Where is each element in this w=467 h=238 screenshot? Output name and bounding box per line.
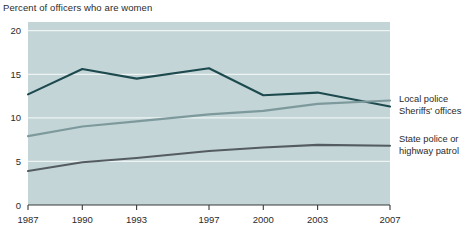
y-tick-label-15: 15 [10, 69, 21, 80]
chart-container: Percent of officers who are women 198719… [0, 0, 467, 238]
legend-label-state-police-line2: highway patrol [399, 146, 459, 158]
legend-entry-local-police: Local police Sheriffs' offices [399, 94, 461, 117]
x-tick-label-1993: 1993 [126, 214, 147, 225]
x-tick-label-1990: 1990 [72, 214, 93, 225]
y-tick-label-0: 0 [16, 200, 21, 211]
y-tick-labels: 05101520 [10, 25, 21, 210]
legend-label-state-police-line1: State police or [399, 134, 459, 146]
x-tick-label-1987: 1987 [17, 214, 38, 225]
line-chart-svg: 1987199019931997200020032007 05101520 [0, 0, 467, 238]
plot-area-wrapper: 1987199019931997200020032007 05101520 Lo… [0, 0, 467, 238]
x-tick-label-2003: 2003 [307, 214, 328, 225]
legend-label-sheriffs-offices: Sheriffs' offices [399, 106, 461, 118]
x-tick-label-1997: 1997 [198, 214, 219, 225]
y-tick-label-20: 20 [10, 25, 21, 36]
legend-entry-state-police: State police or highway patrol [399, 134, 459, 157]
y-tick-label-5: 5 [16, 156, 21, 167]
x-tick-label-2007: 2007 [379, 214, 400, 225]
x-tick-labels: 1987199019931997200020032007 [17, 214, 400, 225]
x-tick-label-2000: 2000 [253, 214, 274, 225]
x-tick-marks [28, 205, 390, 210]
y-tick-label-10: 10 [10, 112, 21, 123]
legend-label-local-police: Local police [399, 94, 461, 106]
